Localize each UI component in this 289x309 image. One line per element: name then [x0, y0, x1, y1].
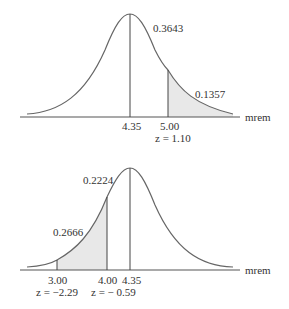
bottom-panel: 0.2224 0.2666 mrem 3.00 4.00 4.35 z = −2… [20, 168, 271, 298]
top-axis-unit: mrem [245, 111, 271, 123]
bottom-area-shaded-label: 0.2666 [53, 226, 84, 238]
bottom-area-center-label: 0.2224 [83, 174, 114, 186]
top-z-label: z = 1.10 [155, 132, 191, 144]
normal-distribution-diagram: 0.3643 0.1357 mrem 4.35 5.00 z = 1.10 0.… [0, 0, 289, 309]
top-area-center-label: 0.3643 [153, 22, 184, 34]
top-panel: 0.3643 0.1357 mrem 4.35 5.00 z = 1.10 [20, 14, 271, 144]
bottom-axis-unit: mrem [245, 264, 271, 276]
bottom-z-left-label: z = −2.29 [36, 286, 79, 298]
bottom-left-label: 3.00 [48, 274, 68, 286]
bottom-right-label: 4.00 [98, 274, 118, 286]
bottom-z-right-label: z = − 0.59 [91, 286, 136, 298]
top-area-tail-label: 0.1357 [195, 88, 226, 100]
bottom-mean-label: 4.35 [122, 274, 142, 286]
top-mean-label: 4.35 [122, 120, 142, 132]
top-cut-label: 5.00 [160, 120, 180, 132]
